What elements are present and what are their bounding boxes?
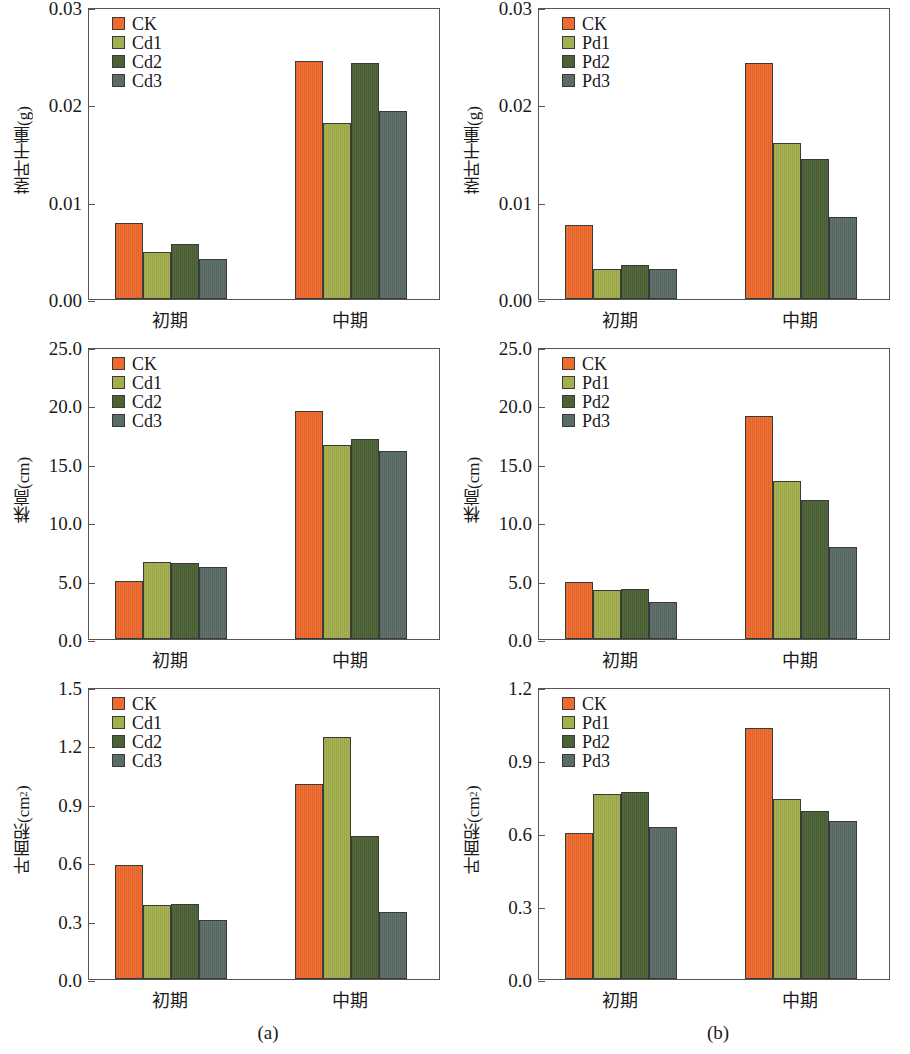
y-axis-tickmark xyxy=(538,204,545,205)
legend-item[interactable]: Pd1 xyxy=(562,33,610,52)
y-axis-tick-label: 0.9 xyxy=(508,752,532,771)
y-axis-tickmark xyxy=(538,908,545,909)
legend-item-label: Cd3 xyxy=(132,412,162,430)
bar xyxy=(829,217,857,299)
bar xyxy=(171,563,199,639)
bar xyxy=(773,799,801,979)
legend-item[interactable]: Pd1 xyxy=(562,713,610,732)
legend-item[interactable]: Pd2 xyxy=(562,732,610,751)
bar xyxy=(323,737,351,979)
y-axis-tickmark xyxy=(88,583,95,584)
legend-item[interactable]: Pd3 xyxy=(562,751,610,770)
legend-item[interactable]: Cd2 xyxy=(112,392,162,411)
y-axis-tick-label: 0.02 xyxy=(49,96,82,115)
bar xyxy=(323,445,351,639)
legend-item-label: CK xyxy=(132,15,157,33)
y-axis-tickmark xyxy=(88,204,95,205)
y-axis-tick-label: 10.0 xyxy=(499,514,532,533)
y-axis-tickmark xyxy=(538,583,545,584)
y-axis-tickmark xyxy=(88,349,95,350)
legend-item[interactable]: CK xyxy=(112,694,162,713)
legend-item[interactable]: CK xyxy=(112,354,162,373)
y-axis-tick-label: 20.0 xyxy=(49,397,82,416)
legend-item[interactable]: Cd2 xyxy=(112,732,162,751)
legend-item[interactable]: Cd3 xyxy=(112,411,162,430)
legend-swatch-icon xyxy=(562,74,575,87)
y-axis-tickmark xyxy=(538,9,545,10)
bar xyxy=(199,259,227,299)
y-axis-tickmark xyxy=(538,524,545,525)
y-axis-tick-label: 0.6 xyxy=(58,854,82,873)
legend: CKPd1Pd2Pd3 xyxy=(562,694,610,770)
legend-item[interactable]: CK xyxy=(562,354,610,373)
y-axis-tick-label: 5.0 xyxy=(508,572,532,591)
y-axis-tickmark xyxy=(88,301,95,302)
x-axis-tick-labels: 初期中期 xyxy=(538,646,890,674)
legend-item[interactable]: Cd3 xyxy=(112,751,162,770)
bar xyxy=(115,865,143,979)
chart-panel-b2: 株高(cm)0.05.010.015.020.025.0CKPd1Pd2Pd3初… xyxy=(450,340,905,680)
y-axis-tick-label: 0.3 xyxy=(58,912,82,931)
y-axis-tick-label: 0.01 xyxy=(499,193,532,212)
legend-swatch-icon xyxy=(112,395,125,408)
bar xyxy=(351,63,379,299)
bar xyxy=(801,159,829,299)
legend-item[interactable]: Cd3 xyxy=(112,71,162,90)
legend-item-label: Cd1 xyxy=(132,374,162,392)
legend-item[interactable]: Cd1 xyxy=(112,373,162,392)
legend-item-label: Pd1 xyxy=(582,34,610,52)
y-axis-tickmark xyxy=(88,923,95,924)
bar xyxy=(565,225,593,299)
legend-item[interactable]: CK xyxy=(112,14,162,33)
legend-item-label: CK xyxy=(582,355,607,373)
x-axis-tick-label: 初期 xyxy=(152,986,188,1012)
legend-item-label: Cd3 xyxy=(132,72,162,90)
y-axis-tick-label: 0.0 xyxy=(58,971,82,990)
legend-swatch-icon xyxy=(562,716,575,729)
subfigure-caption-b: (b) xyxy=(707,1022,729,1044)
y-axis-tickmark xyxy=(538,641,545,642)
legend-item[interactable]: CK xyxy=(562,694,610,713)
legend-item[interactable]: Cd1 xyxy=(112,33,162,52)
legend-item[interactable]: Cd2 xyxy=(112,52,162,71)
y-axis-tickmark xyxy=(538,835,545,836)
legend-item[interactable]: Pd1 xyxy=(562,373,610,392)
legend-swatch-icon xyxy=(562,754,575,767)
legend-swatch-icon xyxy=(562,414,575,427)
y-axis-tick-label: 15.0 xyxy=(49,455,82,474)
legend-swatch-icon xyxy=(112,716,125,729)
y-axis-tickmark xyxy=(538,106,545,107)
x-axis-tick-label: 初期 xyxy=(602,646,638,672)
legend-item[interactable]: Pd2 xyxy=(562,392,610,411)
bar xyxy=(295,411,323,639)
y-axis-tick-label: 0.6 xyxy=(508,825,532,844)
y-axis-tickmark xyxy=(88,981,95,982)
y-axis-tickmark xyxy=(538,466,545,467)
legend-item[interactable]: Cd1 xyxy=(112,713,162,732)
bar xyxy=(649,602,677,639)
legend-item-label: Pd2 xyxy=(582,53,610,71)
legend-item[interactable]: Pd3 xyxy=(562,71,610,90)
legend-swatch-icon xyxy=(112,74,125,87)
legend-item-label: Cd1 xyxy=(132,34,162,52)
subfigure-caption-a: (a) xyxy=(257,1022,278,1044)
bar xyxy=(115,581,143,639)
bar xyxy=(801,500,829,639)
legend-swatch-icon xyxy=(112,55,125,68)
legend: CKPd1Pd2Pd3 xyxy=(562,14,610,90)
legend-item-label: Cd2 xyxy=(132,53,162,71)
legend-item[interactable]: Pd2 xyxy=(562,52,610,71)
legend-item-label: Pd2 xyxy=(582,393,610,411)
legend-item[interactable]: CK xyxy=(562,14,610,33)
bar xyxy=(593,794,621,979)
y-axis-tickmark xyxy=(88,747,95,748)
x-axis-tick-label: 初期 xyxy=(602,986,638,1012)
bar xyxy=(115,223,143,299)
legend-swatch-icon xyxy=(112,376,125,389)
legend: CKCd1Cd2Cd3 xyxy=(112,14,162,90)
bar xyxy=(565,582,593,639)
y-axis-tickmark xyxy=(88,689,95,690)
legend-item[interactable]: Pd3 xyxy=(562,411,610,430)
legend-swatch-icon xyxy=(562,357,575,370)
y-axis-tick-label: 15.0 xyxy=(499,455,532,474)
